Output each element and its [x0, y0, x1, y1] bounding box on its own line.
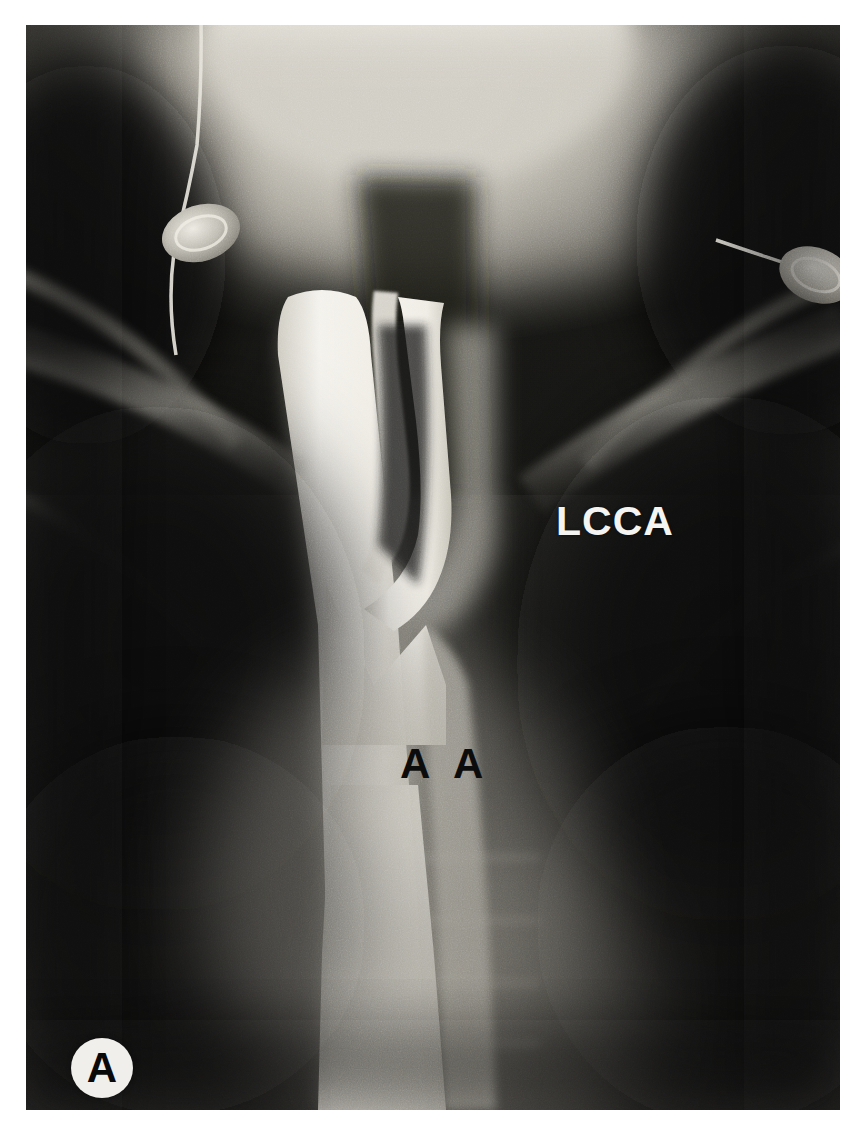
film-grain: [26, 25, 840, 1110]
radiograph-image: [26, 25, 840, 1110]
figure-page: LCCA A A A: [0, 0, 859, 1136]
panel-letter-text: A: [87, 1047, 117, 1089]
panel-letter-badge: A: [71, 1038, 133, 1098]
radiograph-canvas: [26, 25, 840, 1110]
